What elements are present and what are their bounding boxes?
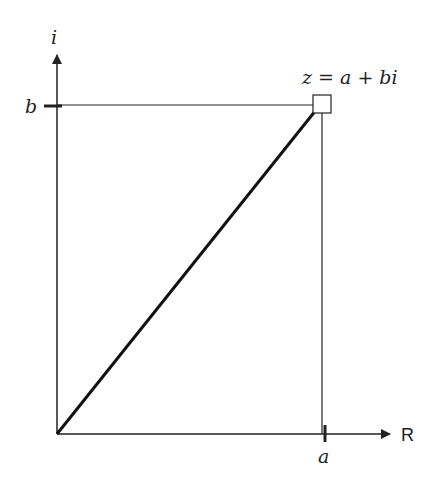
real-axis-label: R (401, 425, 414, 445)
point-marker (313, 95, 331, 113)
imaginary-axis-label: i (51, 26, 57, 48)
b-label: b (25, 95, 37, 117)
a-label: a (318, 445, 329, 467)
point-label: z = a + bi (301, 66, 398, 88)
vector-line (57, 110, 316, 434)
complex-plane-diagram: i b z = a + bi R a (0, 0, 440, 477)
